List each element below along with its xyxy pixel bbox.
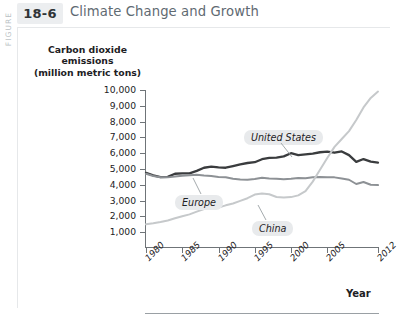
y-axis-tick bbox=[140, 153, 145, 154]
y-axis-tick bbox=[140, 106, 145, 107]
series-label-europe: Europe bbox=[175, 195, 223, 210]
series-line-europe bbox=[146, 174, 378, 185]
y-axis-tick-label: 9,000 bbox=[74, 100, 136, 111]
y-axis-tick bbox=[140, 201, 145, 202]
y-axis-tick bbox=[140, 122, 145, 123]
series-label-united-states: United States bbox=[244, 130, 323, 145]
series-label-china: China bbox=[252, 221, 293, 236]
y-axis-title-line-2: emissions bbox=[30, 55, 145, 66]
y-axis-tick-label: 6,000 bbox=[74, 147, 136, 158]
y-axis-tick-label: 2,000 bbox=[74, 210, 136, 221]
series-line-united-states bbox=[146, 151, 378, 177]
y-axis-tick bbox=[140, 216, 145, 217]
y-axis-tick bbox=[140, 90, 145, 91]
y-axis-tick-label: 3,000 bbox=[74, 195, 136, 206]
figure-header: FIGURE 18-6 Climate Change and Growth bbox=[0, 0, 406, 30]
figure-title: Climate Change and Growth bbox=[70, 4, 259, 19]
y-axis-tick-label: 1,000 bbox=[74, 226, 136, 237]
y-axis-tick-label: 8,000 bbox=[74, 116, 136, 127]
y-axis-tick bbox=[140, 137, 145, 138]
y-axis-tick bbox=[140, 169, 145, 170]
y-axis-tick bbox=[140, 185, 145, 186]
y-axis-title-line-3: (million metric tons) bbox=[30, 67, 145, 78]
y-axis-title: Carbon dioxide emissions (million metric… bbox=[30, 44, 145, 78]
y-axis-tick-label: 10,000 bbox=[74, 84, 136, 95]
y-axis-tick-label: 4,000 bbox=[74, 179, 136, 190]
y-axis-title-line-1: Carbon dioxide bbox=[30, 44, 145, 55]
y-axis-tick-label: 7,000 bbox=[74, 131, 136, 142]
x-axis-title: Year bbox=[346, 288, 371, 299]
figure-bottom-rule bbox=[145, 313, 379, 314]
figure-container: FIGURE 18-6 Climate Change and Growth Ca… bbox=[0, 0, 406, 332]
figure-number: 18-6 bbox=[17, 3, 63, 24]
y-axis-tick-label: 5,000 bbox=[74, 163, 136, 174]
y-axis-tick bbox=[140, 232, 145, 233]
